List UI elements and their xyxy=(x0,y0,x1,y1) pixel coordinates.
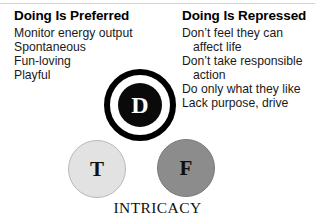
figure-panel: Doing Is Preferred Monitor energy output… xyxy=(0,0,315,222)
list-item: Monitor energy output xyxy=(14,26,164,40)
diagram-node-d-core: D xyxy=(118,83,162,127)
list-item: Don’t feel they can xyxy=(182,26,315,40)
column-doing-repressed: Doing Is Repressed Don’t feel they can a… xyxy=(182,8,315,110)
diagram-node-t: T xyxy=(68,140,126,198)
diagram-node-d-label: D xyxy=(131,93,148,117)
list-item: Lack purpose, drive xyxy=(182,96,315,110)
column-left-heading: Doing Is Preferred xyxy=(14,8,164,23)
column-right-trait-list: Don’t feel they can affect life Don’t ta… xyxy=(182,26,315,110)
list-item: Spontaneous xyxy=(14,40,164,54)
figure-caption: INTRICACY xyxy=(0,199,315,217)
list-item: Don’t take responsible xyxy=(182,54,315,68)
list-item: Do only what they like xyxy=(182,82,315,96)
list-item: action xyxy=(182,68,315,82)
diagram-node-f-label: F xyxy=(180,158,193,179)
list-item: affect life xyxy=(182,40,315,54)
diagram-node-f: F xyxy=(157,139,215,197)
column-right-heading: Doing Is Repressed xyxy=(182,8,315,23)
diagram-node-t-label: T xyxy=(90,159,104,180)
list-item: Fun-loving xyxy=(14,54,164,68)
diagram-node-d: D xyxy=(104,69,176,141)
top-divider xyxy=(0,3,315,4)
